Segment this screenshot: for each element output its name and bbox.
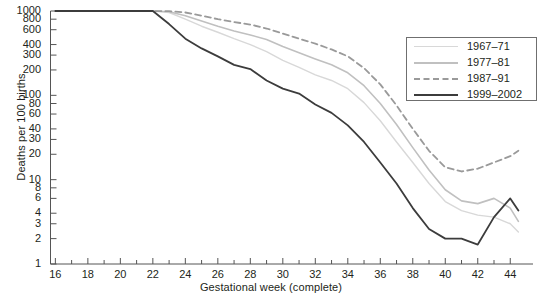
legend: 1967–71 1977–81 1987–91 1999–2002: [406, 37, 537, 101]
legend-item-1987-91: 1987–91: [407, 71, 538, 87]
y-tick-label: 4: [5, 206, 41, 218]
legend-label-1967-71: 1967–71: [467, 40, 510, 52]
legend-key-1977-81: [414, 62, 458, 64]
legend-item-1967-71: 1967–71: [407, 39, 538, 55]
x-tick-label: 40: [428, 268, 462, 280]
y-tick-label: 1000: [5, 4, 41, 16]
x-tick-label: 18: [71, 268, 105, 280]
x-tick-label: 32: [298, 268, 332, 280]
y-tick-label: 2: [5, 232, 41, 244]
y-tick-label: 600: [5, 23, 41, 35]
x-tick-label: 22: [136, 268, 170, 280]
y-tick-label: 200: [5, 63, 41, 75]
y-tick-label: 30: [5, 132, 41, 144]
y-tick-label: 300: [5, 48, 41, 60]
x-tick-label: 26: [201, 268, 235, 280]
x-tick-label: 36: [363, 268, 397, 280]
legend-label-1977-81: 1977–81: [467, 56, 510, 68]
legend-item-1999-2002: 1999–2002: [407, 87, 538, 103]
x-tick-label: 20: [103, 268, 137, 280]
legend-key-1987-91: [414, 78, 458, 80]
x-tick-label: 16: [38, 268, 72, 280]
x-tick-label: 42: [461, 268, 495, 280]
legend-key-1967-71: [414, 46, 458, 47]
legend-key-1999-2002: [414, 94, 458, 96]
x-tick-label: 44: [493, 268, 527, 280]
legend-label-1987-91: 1987–91: [467, 72, 510, 84]
y-tick-label: 6: [5, 191, 41, 203]
x-axis-title: Gestational week (complete): [0, 281, 542, 293]
y-tick-label: 40: [5, 122, 41, 134]
x-tick-label: 24: [168, 268, 202, 280]
x-tick-label: 28: [233, 268, 267, 280]
y-tick-label: 3: [5, 217, 41, 229]
y-tick-label: 20: [5, 147, 41, 159]
x-tick-label: 34: [331, 268, 365, 280]
legend-label-1999-2002: 1999–2002: [467, 88, 522, 100]
gestational-mortality-chart: Deaths per 100 births Gestational week (…: [0, 0, 542, 299]
y-tick-label: 60: [5, 107, 41, 119]
y-tick-label: 400: [5, 38, 41, 50]
x-tick-label: 38: [396, 268, 430, 280]
y-tick-label: 1: [5, 257, 41, 269]
x-tick-label: 30: [266, 268, 300, 280]
y-tick-label: 10: [5, 173, 41, 185]
y-tick-label: 100: [5, 88, 41, 100]
legend-item-1977-81: 1977–81: [407, 55, 538, 71]
